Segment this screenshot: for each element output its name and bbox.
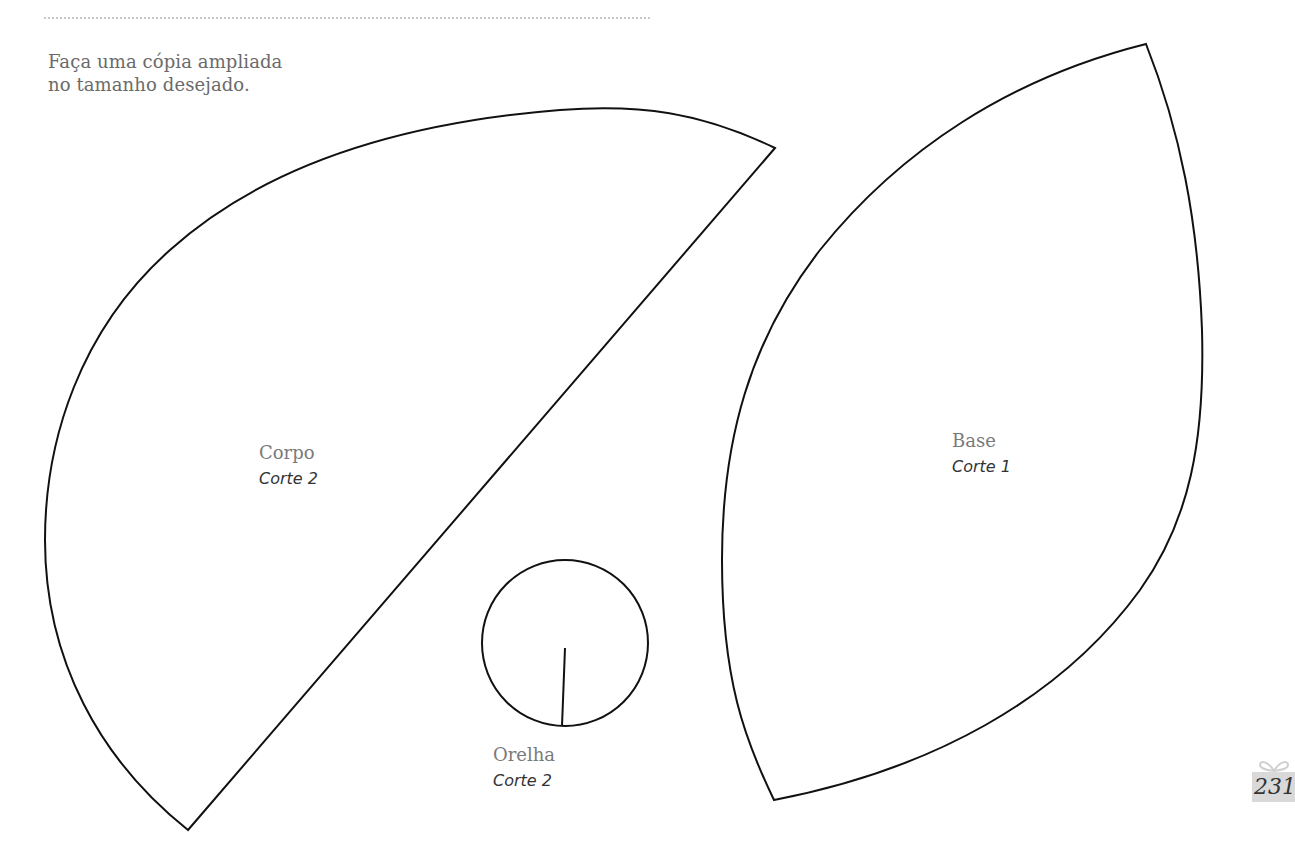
base-label: Base Corte 1 bbox=[952, 428, 1011, 480]
page-number: 231 bbox=[1254, 772, 1295, 802]
orelha-label: Orelha Corte 2 bbox=[493, 742, 555, 794]
page-number-badge: 231 bbox=[1252, 758, 1295, 802]
base-pattern-outline bbox=[722, 44, 1202, 800]
base-cut: Corte 1 bbox=[952, 454, 1011, 480]
orelha-cut-line bbox=[562, 648, 565, 726]
corpo-label: Corpo Corte 2 bbox=[259, 440, 318, 492]
orelha-pattern-outline bbox=[482, 560, 648, 726]
pattern-pieces bbox=[0, 0, 1295, 849]
corpo-pattern-outline bbox=[45, 108, 775, 830]
corpo-name: Corpo bbox=[259, 440, 318, 466]
orelha-name: Orelha bbox=[493, 742, 555, 768]
gift-bow-icon bbox=[1256, 758, 1292, 772]
orelha-cut: Corte 2 bbox=[493, 768, 555, 794]
corpo-cut: Corte 2 bbox=[259, 466, 318, 492]
base-name: Base bbox=[952, 428, 1011, 454]
